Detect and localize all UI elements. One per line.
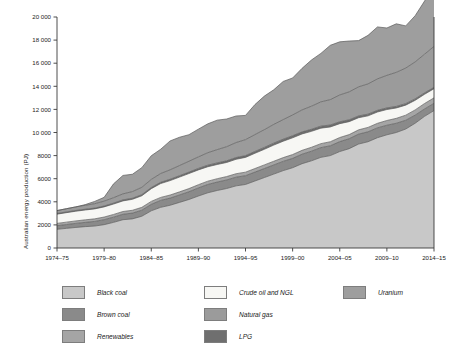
legend-swatch-crude-oil-and-ngl: [204, 286, 227, 299]
legend-item-brown-coal[interactable]: Brown coal: [62, 303, 202, 325]
legend-label-crude-oil-and-ngl: Crude oil and NGL: [239, 289, 294, 296]
x-axis-ticks: 1974–751979–801984–851989–901994–951999–…: [45, 248, 446, 261]
legend-label-brown-coal: Brown coal: [97, 311, 130, 318]
figure-container: Australian energy production (PJ) 020004…: [0, 0, 456, 357]
legend-label-uranium: Uranium: [378, 289, 403, 296]
y-tick-label: 0: [48, 244, 52, 251]
legend-label-renewables: Renewables: [97, 333, 133, 340]
legend-item-uranium[interactable]: Uranium: [343, 281, 453, 303]
x-tick-label: 1989–90: [187, 254, 211, 261]
legend-swatch-uranium: [343, 286, 366, 299]
x-tick-label: 2004–05: [328, 254, 352, 261]
y-tick-label: 2000: [37, 221, 51, 228]
legend-column-3: Uranium: [343, 281, 453, 303]
legend-swatch-brown-coal: [62, 308, 85, 321]
legend-column-2: Crude oil and NGLNatural gasLPG: [204, 281, 349, 347]
legend-item-black-coal[interactable]: Black coal: [62, 281, 202, 303]
legend-item-lpg[interactable]: LPG: [204, 325, 349, 347]
y-tick-label: 4000: [37, 198, 51, 205]
legend-swatch-natural-gas: [204, 308, 227, 321]
y-tick-label: 14 000: [32, 83, 51, 90]
y-tick-label: 12 000: [32, 106, 51, 113]
x-tick-label: 1974–75: [45, 254, 69, 261]
chart-legend: Black coalBrown coalRenewablesCrude oil …: [58, 281, 450, 347]
legend-label-lpg: LPG: [239, 333, 252, 340]
legend-label-natural-gas: Natural gas: [239, 311, 273, 318]
x-tick-label: 1999–00: [281, 254, 305, 261]
y-axis-ticks: 0200040006000800010 00012 00014 00016 00…: [32, 13, 57, 251]
y-tick-label: 6000: [37, 175, 51, 182]
x-tick-label: 2014–15: [422, 254, 446, 261]
legend-swatch-renewables: [62, 330, 85, 343]
y-tick-label: 16 000: [32, 59, 51, 66]
x-tick-label: 2009–10: [375, 254, 399, 261]
chart-series-areas: [57, 0, 434, 248]
legend-item-natural-gas[interactable]: Natural gas: [204, 303, 349, 325]
x-tick-label: 1994–95: [234, 254, 258, 261]
legend-swatch-lpg: [204, 330, 227, 343]
y-tick-label: 20 000: [32, 13, 51, 20]
y-tick-label: 10 000: [32, 129, 51, 136]
legend-label-black-coal: Black coal: [97, 289, 127, 296]
y-tick-label: 8000: [37, 152, 51, 159]
legend-swatch-black-coal: [62, 286, 85, 299]
legend-item-crude-oil-and-ngl[interactable]: Crude oil and NGL: [204, 281, 349, 303]
y-tick-label: 18 000: [32, 36, 51, 43]
x-tick-label: 1984–85: [139, 254, 163, 261]
legend-item-renewables[interactable]: Renewables: [62, 325, 202, 347]
legend-column-1: Black coalBrown coalRenewables: [62, 281, 202, 347]
x-tick-label: 1979–80: [92, 254, 116, 261]
